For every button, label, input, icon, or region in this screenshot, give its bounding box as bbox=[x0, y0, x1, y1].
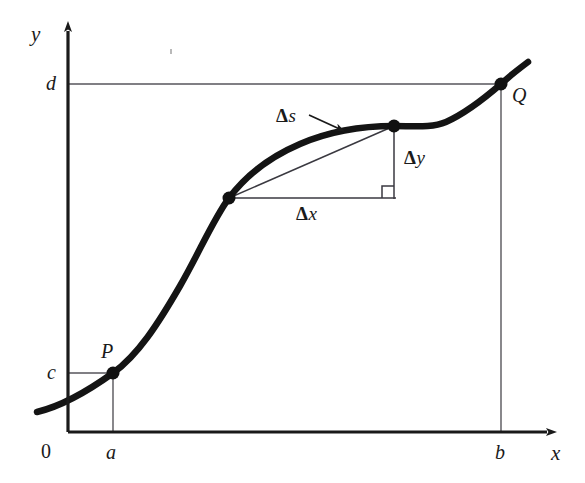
x-axis-label: x bbox=[551, 443, 560, 464]
delta-y-label: Δy bbox=[404, 148, 425, 167]
delta-x-symbol: Δ bbox=[296, 203, 308, 224]
origin-label: 0 bbox=[41, 441, 51, 461]
delta-s-pointer-arrow-icon bbox=[309, 115, 344, 131]
x-tick-label-b: b bbox=[495, 442, 505, 462]
y-axis-label: y bbox=[31, 24, 40, 45]
axes bbox=[68, 31, 547, 432]
construction-lines bbox=[68, 84, 501, 432]
right-angle-marker-icon bbox=[382, 186, 394, 198]
delta-x-variable: x bbox=[308, 203, 316, 224]
y-tick-label-c: c bbox=[47, 362, 56, 382]
scan-speck-artifact bbox=[170, 49, 172, 54]
point-right-vertex-dot bbox=[388, 120, 401, 133]
point-label-P: P bbox=[101, 341, 113, 361]
delta-y-variable: y bbox=[416, 147, 424, 168]
x-tick-label-a: a bbox=[106, 442, 116, 462]
diagram-canvas bbox=[0, 0, 585, 483]
y-tick-label-d: d bbox=[46, 73, 56, 93]
point-label-Q: Q bbox=[512, 85, 526, 105]
point-P-dot bbox=[107, 367, 120, 380]
delta-s-symbol: Δ bbox=[276, 105, 288, 126]
delta-y-symbol: Δ bbox=[404, 147, 416, 168]
arc-length-figure: y x 0 a b c d P Q Δs Δx Δy bbox=[0, 0, 585, 483]
point-Q-dot bbox=[495, 78, 508, 91]
delta-s-label: Δs bbox=[276, 106, 296, 125]
point-left-vertex-dot bbox=[223, 192, 236, 205]
delta-x-label: Δx bbox=[296, 204, 317, 223]
delta-s-variable: s bbox=[288, 105, 295, 126]
